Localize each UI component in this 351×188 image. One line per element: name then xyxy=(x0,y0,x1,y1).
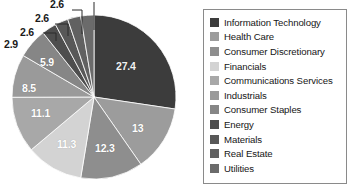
slice-label-consumer-discretionary: 12.3 xyxy=(95,142,115,154)
slice-label-financials: 11.3 xyxy=(57,138,76,150)
legend-item-label: Materials xyxy=(224,134,262,145)
legend-swatch-icon xyxy=(210,18,219,27)
legend-swatch-icon xyxy=(210,135,219,144)
slice-label-communications-services: 11.1 xyxy=(31,107,50,119)
legend: Information TechnologyHealth CareConsume… xyxy=(203,9,347,184)
legend-item-label: Utilities xyxy=(224,163,254,174)
legend-item[interactable]: Industrials xyxy=(210,88,342,103)
legend-item-label: Financials xyxy=(224,61,266,72)
legend-item-label: Consumer Staples xyxy=(224,104,301,115)
legend-item[interactable]: Communications Services xyxy=(210,73,342,88)
legend-item-label: Energy xyxy=(224,119,254,130)
legend-item[interactable]: Information Technology xyxy=(210,15,342,30)
legend-swatch-icon xyxy=(210,105,219,114)
legend-swatch-icon xyxy=(210,47,219,56)
legend-swatch-icon xyxy=(210,120,219,129)
legend-item[interactable]: Financials xyxy=(210,59,342,74)
legend-item-label: Information Technology xyxy=(224,17,321,28)
legend-item[interactable]: Real Estate xyxy=(210,146,342,161)
legend-swatch-icon xyxy=(210,32,219,41)
legend-swatch-icon xyxy=(210,62,219,71)
legend-item[interactable]: Consumer Staples xyxy=(210,103,342,118)
legend-item-label: Health Care xyxy=(224,31,274,42)
callout-label-2: 2.6 xyxy=(20,26,34,38)
slice-label-health-care: 13 xyxy=(132,122,143,134)
legend-item[interactable]: Energy xyxy=(210,117,342,132)
pie-slice-group xyxy=(12,15,176,179)
legend-swatch-icon xyxy=(210,164,219,173)
legend-item[interactable]: Consumer Discretionary xyxy=(210,44,342,59)
callout-label-3: 2.9 xyxy=(4,38,18,50)
legend-item-label: Consumer Discretionary xyxy=(224,46,325,57)
legend-item[interactable]: Utilities xyxy=(210,161,342,176)
callout-label-cropped: 2.6 xyxy=(50,0,64,10)
legend-swatch-icon xyxy=(210,91,219,100)
slice-label-consumer-staples: 5.9 xyxy=(40,56,54,68)
legend-item[interactable]: Materials xyxy=(210,132,342,147)
legend-swatch-icon xyxy=(210,76,219,85)
callout-label-1: 2.6 xyxy=(35,12,49,24)
pie-chart: 2.6 2.6 2.6 2.9 27.4 13 12.3 11.3 11.1 8… xyxy=(0,0,351,188)
legend-swatch-icon xyxy=(210,149,219,158)
pie-plot-area: 2.6 2.6 2.6 2.9 27.4 13 12.3 11.3 11.1 8… xyxy=(0,0,200,188)
slice-label-industrials: 8.5 xyxy=(22,82,36,94)
legend-item[interactable]: Health Care xyxy=(210,30,342,45)
legend-item-label: Industrials xyxy=(224,90,267,101)
slice-label-information-technology: 27.4 xyxy=(116,60,136,72)
legend-item-label: Real Estate xyxy=(224,148,273,159)
legend-item-label: Communications Services xyxy=(224,75,333,86)
